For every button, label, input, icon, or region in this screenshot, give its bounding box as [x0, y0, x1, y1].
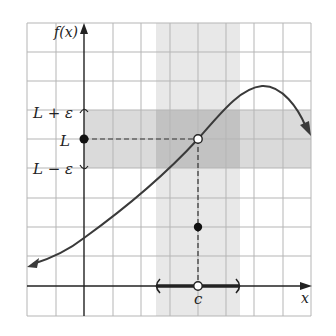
y-axis-label: f(x) [53, 24, 78, 40]
label-L-minus-epsilon: L − ε [32, 160, 73, 178]
x-axis-label: x [301, 290, 309, 306]
y-axis-arrow-icon [80, 23, 88, 34]
point-L-on-axis [80, 135, 89, 144]
open-circle-limit [194, 135, 202, 143]
point-f-of-c [194, 223, 202, 231]
c-label: c [194, 290, 203, 308]
label-L-plus-epsilon: L + ε [32, 104, 73, 122]
x-axis-arrow-icon [300, 282, 312, 290]
open-circle-c [194, 282, 202, 290]
label-L: L [59, 132, 70, 150]
curve-left-arrow-icon [27, 258, 39, 268]
limit-diagram: f(x) x c L + ε L L − ε [0, 0, 336, 336]
